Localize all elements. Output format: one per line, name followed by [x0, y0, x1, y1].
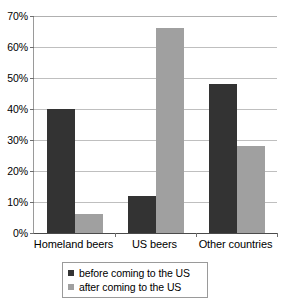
- y-axis-tick-label: 70%: [7, 11, 28, 22]
- plot-area: [33, 16, 277, 234]
- bar[interactable]: [75, 214, 103, 233]
- bar-chart: 70%60%50%40%30%20%10%0% Homeland beersUS…: [0, 0, 284, 305]
- legend-item[interactable]: before coming to the US: [68, 266, 202, 280]
- y-axis-tick-label: 0%: [13, 228, 28, 239]
- y-axis-tick-mark: [30, 233, 34, 234]
- bar-group: [128, 16, 184, 233]
- x-axis-tick-mark: [196, 233, 197, 237]
- bar[interactable]: [237, 146, 265, 233]
- x-axis-tick-mark: [277, 233, 278, 237]
- plot-wrapper: 70%60%50%40%30%20%10%0%: [0, 0, 284, 240]
- bar[interactable]: [47, 109, 75, 233]
- x-axis-tick-mark: [115, 233, 116, 237]
- x-axis-category-label: Homeland beers: [34, 238, 113, 250]
- bars-layer: [34, 16, 277, 233]
- legend-label: after coming to the US: [79, 282, 181, 293]
- bar-group: [209, 16, 265, 233]
- x-axis-category-label: US beers: [132, 238, 177, 250]
- x-axis-category-label: Other countries: [199, 238, 273, 250]
- y-axis-tick-label: 50%: [7, 73, 28, 84]
- y-axis-tick-label: 30%: [7, 135, 28, 146]
- bar[interactable]: [156, 28, 184, 233]
- y-axis-tick-label: 40%: [7, 104, 28, 115]
- y-axis-tick-label: 10%: [7, 197, 28, 208]
- y-axis-tick-label: 60%: [7, 42, 28, 53]
- bar-group: [47, 16, 103, 233]
- legend-item[interactable]: after coming to the US: [68, 280, 202, 294]
- legend-swatch-icon: [68, 270, 74, 276]
- bar[interactable]: [128, 196, 156, 233]
- legend-swatch-icon: [68, 284, 74, 290]
- bar[interactable]: [209, 84, 237, 233]
- chart-legend: before coming to the USafter coming to t…: [62, 262, 208, 298]
- x-axis-category-labels: Homeland beersUS beersOther countries: [33, 238, 276, 256]
- y-axis: 70%60%50%40%30%20%10%0%: [0, 0, 31, 240]
- y-axis-tick-label: 20%: [7, 166, 28, 177]
- legend-label: before coming to the US: [79, 268, 190, 279]
